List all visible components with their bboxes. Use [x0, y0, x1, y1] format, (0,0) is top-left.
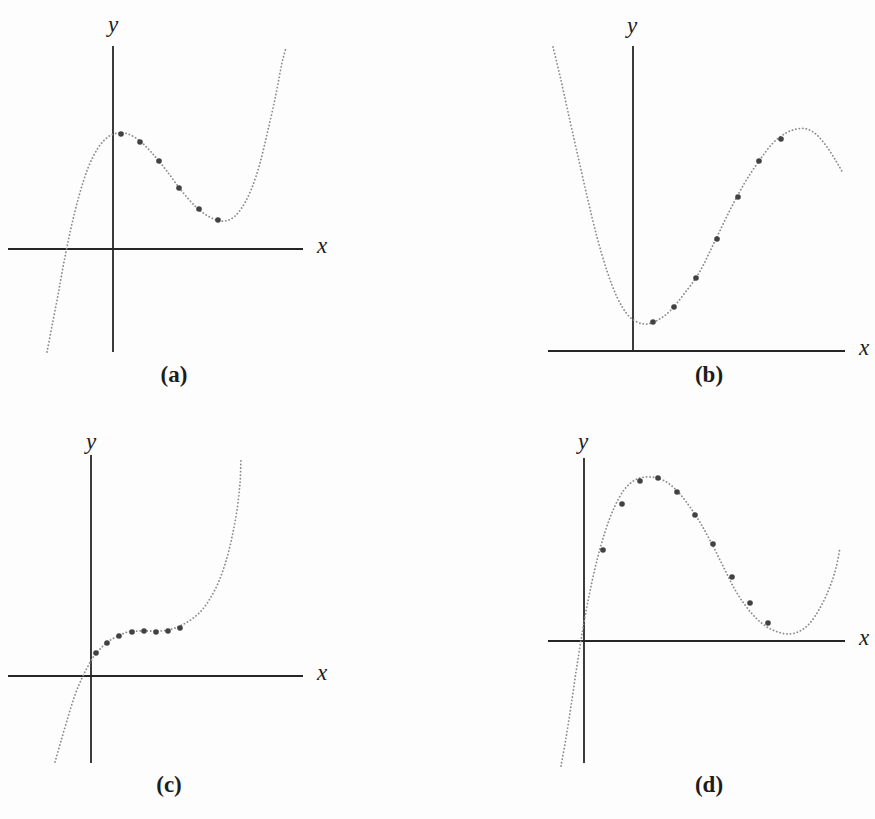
data-point	[137, 139, 143, 145]
curve-fitting-figure-page: yx(a)yx(b)yx(c)yx(d)	[0, 0, 875, 819]
panel-c: yx(c)	[8, 429, 328, 797]
data-point	[129, 629, 135, 635]
data-point	[714, 236, 720, 242]
data-point	[116, 633, 122, 639]
data-point	[692, 512, 698, 518]
data-point	[153, 629, 159, 635]
data-point	[93, 650, 99, 656]
data-point	[729, 574, 735, 580]
data-point	[778, 136, 784, 142]
x-axis-label: x	[858, 625, 870, 650]
y-axis-label: y	[625, 13, 638, 38]
x-axis-label: x	[316, 233, 328, 258]
panel-label: (d)	[695, 772, 723, 797]
data-point	[118, 131, 124, 137]
data-point	[735, 194, 741, 200]
curve-fitting-figure-canvas: yx(a)yx(b)yx(c)yx(d)	[0, 0, 875, 819]
data-point	[619, 501, 625, 507]
data-point	[141, 628, 147, 634]
panel-label: (c)	[156, 772, 182, 797]
data-point	[765, 620, 771, 626]
data-point	[104, 640, 110, 646]
data-point	[655, 475, 661, 481]
y-axis-label: y	[106, 12, 119, 37]
panel-a: yx(a)	[8, 12, 328, 387]
fitted-curve	[561, 477, 840, 766]
panel-b: yx(b)	[548, 13, 870, 387]
panel-d: yx(d)	[548, 429, 870, 797]
data-point	[156, 158, 162, 164]
data-point	[637, 478, 643, 484]
panel-label: (a)	[161, 362, 188, 387]
y-axis-label: y	[84, 429, 97, 454]
fitted-curve	[55, 458, 241, 762]
data-point	[747, 600, 753, 606]
y-axis-label: y	[576, 429, 589, 454]
data-point	[600, 547, 606, 553]
data-point	[693, 275, 699, 281]
data-point	[671, 304, 677, 310]
data-point	[215, 217, 221, 223]
data-point	[650, 319, 656, 325]
data-point	[710, 541, 716, 547]
data-point	[176, 185, 182, 191]
panel-label: (b)	[695, 362, 723, 387]
fitted-curve	[553, 47, 843, 324]
data-point	[674, 489, 680, 495]
x-axis-label: x	[316, 660, 328, 685]
data-point	[756, 158, 762, 164]
fitted-curve	[47, 48, 286, 352]
data-point	[165, 628, 171, 634]
data-point	[177, 625, 183, 631]
x-axis-label: x	[858, 335, 870, 360]
data-point	[196, 206, 202, 212]
